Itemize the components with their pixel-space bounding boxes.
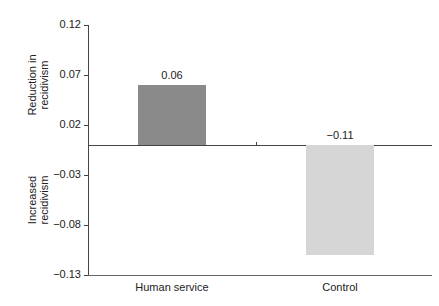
bar-value-label: 0.06 xyxy=(132,69,212,81)
y-axis-title-top-line2: recidivism xyxy=(38,40,50,130)
y-axis-line xyxy=(88,25,89,275)
y-axis-title-bottom-line2: recidivism xyxy=(38,155,50,245)
y-axis-title-bottom-line1: Increased xyxy=(26,155,38,245)
y-tick xyxy=(84,25,88,26)
category-label: Control xyxy=(280,281,400,293)
zero-line xyxy=(88,145,432,146)
category-label: Human service xyxy=(112,281,232,293)
y-tick xyxy=(84,175,88,176)
y-tick xyxy=(84,225,88,226)
x-axis-line xyxy=(88,275,432,276)
y-axis-title-bottom: Increased recidivism xyxy=(26,155,50,245)
y-axis-title-top: Reduction in recidivism xyxy=(26,40,50,130)
bar-human-service xyxy=(138,85,206,145)
x-tick xyxy=(256,142,257,145)
bar-control xyxy=(306,145,374,255)
y-axis-title-top-line1: Reduction in xyxy=(26,40,38,130)
y-tick xyxy=(84,125,88,126)
y-tick-label: −0.13 xyxy=(31,268,81,280)
bar-value-label: −0.11 xyxy=(300,129,380,141)
y-tick-label: 0.12 xyxy=(31,18,81,30)
y-tick xyxy=(84,75,88,76)
